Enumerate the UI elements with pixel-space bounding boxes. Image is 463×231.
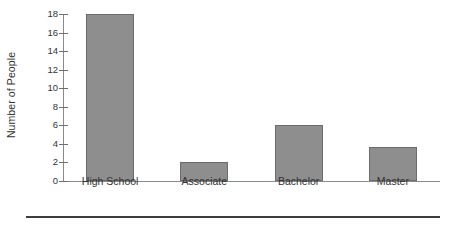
y-tick-label: 2 [53,158,58,168]
bar-high-school [86,14,134,181]
x-axis-label: Master [377,176,409,187]
y-tick-label: 16 [47,28,58,38]
y-tick-mark [59,181,68,182]
y-tick-mark [59,51,68,52]
y-axis-line [63,14,64,181]
y-tick-mark [59,14,68,15]
y-tick-label: 4 [53,139,58,149]
bar-chart-figure: Number of People 024681012141618 High Sc… [0,0,463,231]
y-tick-mark [59,144,68,145]
plot-area: 024681012141618 [63,14,440,181]
y-tick-label: 14 [47,46,58,56]
y-tick-label: 0 [53,176,58,186]
x-axis-label: Bachelor [278,176,319,187]
y-tick-mark [59,70,68,71]
x-axis-label: High School [82,176,139,187]
y-tick-label: 8 [53,102,58,112]
y-tick-label: 12 [47,65,58,75]
x-axis-label: Associate [182,176,228,187]
y-tick-mark [59,107,68,108]
y-tick-label: 18 [47,9,58,19]
y-tick-label: 6 [53,121,58,131]
y-tick-mark [59,33,68,34]
y-tick-mark [59,125,68,126]
y-tick-label: 10 [47,83,58,93]
y-tick-mark [59,88,68,89]
y-axis-title: Number of People [0,0,22,190]
y-axis-title-text: Number of People [5,52,17,138]
bar-bachelor [275,125,323,181]
bottom-divider-rule [26,216,440,218]
y-tick-mark [59,162,68,163]
